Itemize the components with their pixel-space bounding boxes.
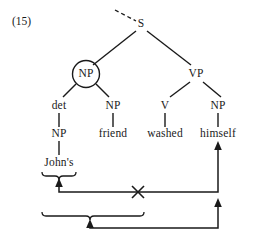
- node-label-s: S: [138, 18, 145, 30]
- edge-s-to-np: [93, 31, 136, 65]
- tree-and-coindexing-lines: [0, 0, 254, 241]
- edge-np-to-det: [63, 84, 76, 97]
- edge-s-to-vp: [147, 31, 191, 65]
- edge-np-to-np-friend: [96, 84, 109, 97]
- brace-johns-friend: [42, 212, 144, 220]
- syntax-tree-figure: (15): [0, 0, 254, 241]
- node-label-v: V: [161, 100, 170, 112]
- node-label-np-top: NP: [78, 68, 93, 80]
- node-label-himself: himself: [200, 128, 236, 140]
- arrowhead-to-himself-lower: [214, 198, 222, 207]
- node-label-friend: friend: [99, 128, 128, 140]
- arrowhead-to-himself-upper: [214, 141, 222, 150]
- arrowhead-to-johns-friend: [86, 219, 94, 228]
- edge-vp-to-np-himself: [203, 82, 221, 97]
- dashed-extension-line: [115, 10, 136, 21]
- edge-vp-to-v: [170, 82, 190, 97]
- node-label-np-friend: NP: [105, 100, 120, 112]
- node-label-washed: washed: [147, 128, 183, 140]
- node-label-np-johns: NP: [51, 128, 66, 140]
- coindex-path-blocked: [59, 147, 218, 192]
- node-label-johns: John's: [44, 157, 73, 169]
- node-label-np-himself: NP: [210, 100, 225, 112]
- node-label-vp: VP: [188, 68, 203, 80]
- node-label-det: det: [52, 100, 67, 112]
- arrowhead-to-johns: [55, 178, 63, 187]
